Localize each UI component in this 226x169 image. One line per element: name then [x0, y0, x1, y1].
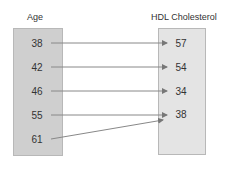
mapping-arrows: [0, 0, 226, 169]
arrow-61-38: [51, 120, 163, 139]
